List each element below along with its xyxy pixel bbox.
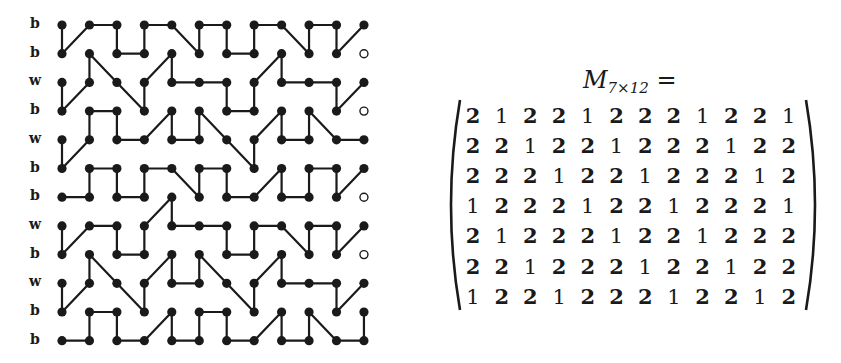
matrix-cell: 2 <box>609 163 624 188</box>
matrix-cell: 1 <box>552 164 565 188</box>
filled-node <box>277 20 286 29</box>
matrix-cell: 2 <box>695 254 710 279</box>
filled-node <box>250 20 259 29</box>
matrix-cell: 2 <box>494 254 509 279</box>
matrix-cell: 2 <box>781 254 796 279</box>
filled-node <box>222 135 231 144</box>
matrix-cell: 2 <box>523 284 538 309</box>
filled-node <box>222 221 231 230</box>
filled-node <box>195 336 204 345</box>
filled-node <box>250 250 259 259</box>
matrix-cell: 1 <box>696 224 709 248</box>
matrix-cell: 2 <box>667 133 682 158</box>
filled-node <box>167 336 176 345</box>
matrix-cell: 2 <box>724 103 739 128</box>
matrix-cell: 2 <box>638 133 653 158</box>
filled-node <box>112 135 121 144</box>
filled-node <box>112 164 121 173</box>
left-parenthesis <box>451 100 460 310</box>
filled-node <box>332 221 341 230</box>
filled-node <box>167 135 176 144</box>
matrix-cell: 2 <box>667 103 682 128</box>
matrix-cell: 1 <box>610 224 623 248</box>
matrix-cell: 2 <box>638 223 653 248</box>
filled-node <box>304 164 313 173</box>
open-node <box>360 50 368 58</box>
filled-node <box>277 250 286 259</box>
filled-node <box>167 107 176 116</box>
filled-node <box>304 107 313 116</box>
matrix-cell: 1 <box>782 194 795 218</box>
filled-node <box>112 307 121 316</box>
filled-node <box>140 336 149 345</box>
path-4 <box>62 197 364 254</box>
filled-node <box>195 49 204 58</box>
filled-node <box>250 78 259 87</box>
filled-node <box>112 250 121 259</box>
filled-node <box>332 307 341 316</box>
matrix-cell: 2 <box>667 254 682 279</box>
filled-node <box>57 279 66 288</box>
filled-node <box>304 78 313 87</box>
matrix-cell: 1 <box>782 104 795 128</box>
filled-node <box>222 336 231 345</box>
filled-node <box>57 20 66 29</box>
matrix-cell: 2 <box>494 284 509 309</box>
matrix-cell: 2 <box>638 103 653 128</box>
filled-node <box>167 164 176 173</box>
filled-node <box>222 20 231 29</box>
filled-node <box>304 20 313 29</box>
filled-node <box>359 20 368 29</box>
matrix-cell: 2 <box>552 223 567 248</box>
matrix-cell: 2 <box>753 254 768 279</box>
matrix-cell: 1 <box>753 285 766 309</box>
filled-node <box>57 336 66 345</box>
filled-node <box>222 164 231 173</box>
filled-node <box>140 78 149 87</box>
matrix-cell: 2 <box>523 193 538 218</box>
filled-node <box>167 250 176 259</box>
filled-node <box>57 49 66 58</box>
filled-node <box>195 78 204 87</box>
filled-node <box>250 49 259 58</box>
filled-node <box>167 279 176 288</box>
filled-node <box>195 307 204 316</box>
matrix-title: M7×12 = <box>583 66 677 97</box>
filled-node <box>332 279 341 288</box>
matrix-cell: 1 <box>667 285 680 309</box>
filled-node <box>140 49 149 58</box>
matrix-cell: 2 <box>781 163 796 188</box>
filled-node <box>304 135 313 144</box>
filled-node <box>359 135 368 144</box>
filled-node <box>112 78 121 87</box>
filled-node <box>332 135 341 144</box>
filled-node <box>195 20 204 29</box>
filled-node <box>57 193 66 202</box>
matrix-cell: 2 <box>552 103 567 128</box>
matrix-cell: 1 <box>524 255 537 279</box>
filled-node <box>195 221 204 230</box>
filled-node <box>304 193 313 202</box>
filled-node <box>277 193 286 202</box>
filled-node <box>57 221 66 230</box>
matrix-cell: 2 <box>466 254 481 279</box>
filled-node <box>250 193 259 202</box>
matrix-cell: 2 <box>781 223 796 248</box>
filled-node <box>140 164 149 173</box>
filled-node <box>140 250 149 259</box>
filled-node <box>222 279 231 288</box>
filled-node <box>112 279 121 288</box>
filled-node <box>167 49 176 58</box>
filled-node <box>277 279 286 288</box>
matrix-cell: 2 <box>609 103 624 128</box>
matrix-cell: 2 <box>609 254 624 279</box>
row-label: w <box>28 73 42 87</box>
row-label: b <box>28 16 42 30</box>
matrix-cell: 2 <box>609 284 624 309</box>
matrix: 2122122212212212212221222221221222121222… <box>440 95 840 325</box>
path-5 <box>62 255 364 312</box>
filled-node <box>140 135 149 144</box>
filled-node <box>250 221 259 230</box>
matrix-cell: 2 <box>466 133 481 158</box>
filled-node <box>332 107 341 116</box>
